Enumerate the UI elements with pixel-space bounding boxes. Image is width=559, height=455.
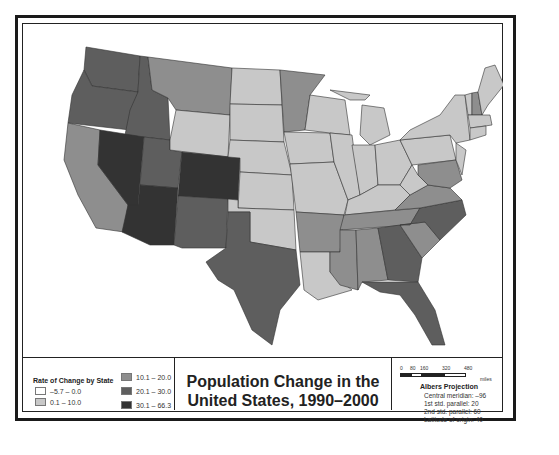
scale-unit: miles [480, 376, 492, 382]
scale-segment [422, 373, 444, 377]
legend-label: 10.1 – 20.0 [136, 374, 171, 381]
projection-central-meridian: Central meridian: –96 [424, 392, 486, 399]
state-florida [362, 282, 445, 345]
title-panel: Population Change in the United States, … [175, 358, 392, 410]
scale-segment [400, 373, 411, 377]
map-title: Population Change in the United States, … [175, 372, 391, 410]
state-arkansas [296, 212, 344, 252]
legend-label: 0.1 – 10.0 [50, 399, 81, 406]
scale-bar: 0 80 160 320 480 miles [400, 365, 475, 381]
legend-item: 10.1 – 20.0 [121, 373, 171, 381]
scale-tick: 160 [420, 365, 428, 371]
state-colorado [178, 152, 240, 200]
legend-swatch [121, 401, 132, 409]
legend-swatch [121, 387, 132, 395]
legend-item: 30.1 – 66.3 [121, 401, 171, 409]
state-iowa [284, 132, 334, 164]
projection-panel: 0 80 160 320 480 miles Albers Projection… [392, 358, 502, 410]
legend-swatch [35, 398, 46, 406]
legend-item: –5.7 – 0.0 [35, 387, 81, 395]
legend-label: 20.1 – 30.0 [136, 388, 171, 395]
choropleth-map [22, 23, 503, 357]
scale-tick: 80 [410, 365, 416, 371]
state-washington [84, 47, 140, 92]
state-maine [478, 65, 503, 115]
map-title-line1: Population Change in the [175, 372, 391, 391]
scale-tick: 480 [464, 365, 472, 371]
legend-title: Rate of Change by State [33, 377, 114, 384]
legend-swatch [121, 373, 132, 381]
state-connecticut [470, 126, 486, 140]
scale-segment [444, 373, 466, 377]
state-wyoming [170, 110, 230, 157]
state-kansas [238, 172, 294, 210]
projection-std-parallel-1: 1st std. parallel: 20 [424, 400, 479, 407]
scale-tick: 320 [442, 365, 450, 371]
scale-tick: 0 [400, 365, 403, 371]
state-south-dakota [230, 104, 284, 142]
legend-item: 0.1 – 10.0 [35, 398, 81, 406]
state-new-mexico [174, 196, 228, 248]
legend-item: 20.1 – 30.0 [121, 387, 171, 395]
scale-segment [411, 373, 422, 377]
state-north-dakota [230, 68, 282, 105]
map-title-line2: United States, 1990–2000 [175, 391, 391, 410]
legend-swatch [35, 387, 46, 395]
legend-panel: Rate of Change by State –5.7 – 0.0 0.1 –… [22, 358, 175, 410]
state-massachusetts [468, 115, 492, 128]
us-map [22, 23, 503, 358]
state-wisconsin [305, 95, 350, 135]
legend-label: 30.1 – 66.3 [136, 402, 171, 409]
legend-label: –5.7 – 0.0 [50, 388, 81, 395]
projection-title: Albers Projection [420, 383, 478, 390]
state-new-york [400, 95, 470, 143]
projection-std-parallel-2: 2nd std. parallel: 60 [424, 408, 481, 415]
projection-latitude-origin: Latitude of origin: 40 [424, 416, 483, 423]
